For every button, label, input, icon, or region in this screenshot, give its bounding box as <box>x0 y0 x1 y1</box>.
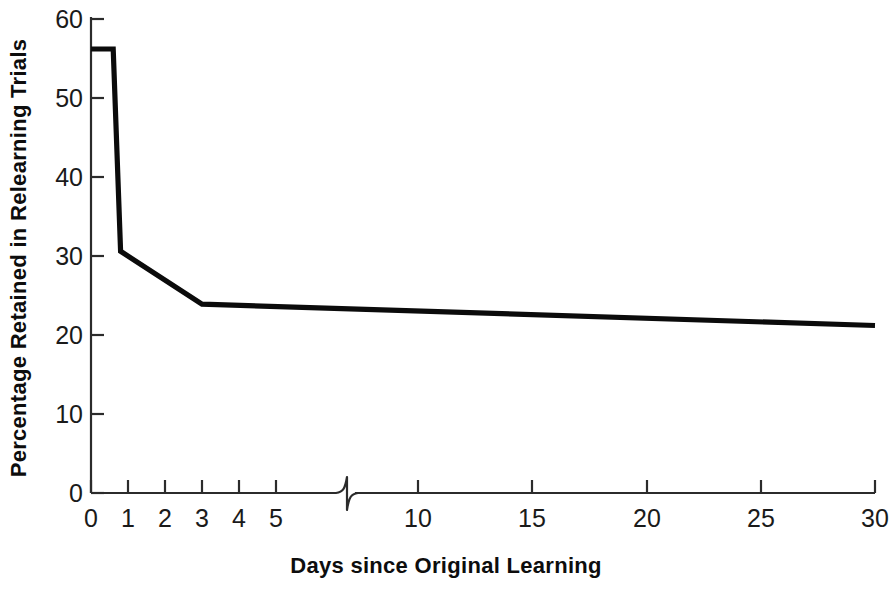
y-axis-title: Percentage Retained in Relearning Trials <box>6 39 31 478</box>
x-tick-label-20: 20 <box>633 504 661 532</box>
forgetting-curve-chart: 0 10 20 30 40 50 60 0 1 2 3 <box>0 0 894 593</box>
x-tick-label-25: 25 <box>747 504 775 532</box>
x-tick-label-0: 0 <box>84 504 98 532</box>
x-axis-break-icon <box>336 477 358 510</box>
x-tick-label-2: 2 <box>158 504 172 532</box>
x-tick-label-1: 1 <box>121 504 135 532</box>
x-tick-label-15: 15 <box>518 504 546 532</box>
x-axis-tick-labels: 0 1 2 3 4 5 10 15 20 25 30 <box>84 504 889 532</box>
chart-page: 0 10 20 30 40 50 60 0 1 2 3 <box>0 0 894 593</box>
x-tick-label-3: 3 <box>195 504 209 532</box>
y-tick-label-20: 20 <box>55 321 83 349</box>
x-tick-label-10: 10 <box>404 504 432 532</box>
x-tick-label-5: 5 <box>269 504 283 532</box>
y-tick-label-30: 30 <box>55 242 83 270</box>
y-axis-ticks <box>91 19 104 493</box>
y-tick-label-40: 40 <box>55 163 83 191</box>
y-tick-label-60: 60 <box>55 5 83 33</box>
y-tick-label-10: 10 <box>55 400 83 428</box>
y-tick-label-50: 50 <box>55 84 83 112</box>
x-tick-label-4: 4 <box>232 504 246 532</box>
x-tick-label-30: 30 <box>861 504 889 532</box>
x-axis-title: Days since Original Learning <box>290 553 602 578</box>
forgetting-curve-line <box>91 49 875 326</box>
y-axis-tick-labels: 0 10 20 30 40 50 60 <box>55 5 83 507</box>
x-axis-ticks <box>91 480 875 493</box>
y-tick-label-0: 0 <box>69 479 83 507</box>
